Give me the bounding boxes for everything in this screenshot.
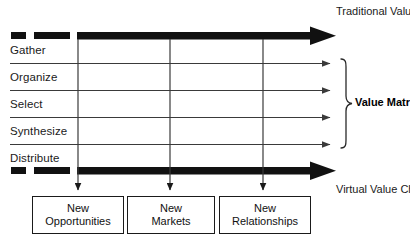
node-box-label: New Markets xyxy=(151,202,190,228)
node-box-label: New Opportunities xyxy=(45,202,110,228)
row-label-distribute: Distribute xyxy=(10,152,60,164)
value-matrix-brace xyxy=(341,59,352,148)
traditional-value-chain-label: Traditional Value Chain xyxy=(336,5,408,18)
virtual-value-chain-arrow xyxy=(11,162,336,181)
traditional-value-chain-arrow xyxy=(11,27,336,46)
virtual-value-chain-label: Virtual Value Chain xyxy=(336,183,408,196)
row-label-gather: Gather xyxy=(10,44,46,56)
node-box-new-opportunities[interactable]: New Opportunities xyxy=(32,196,124,234)
value-matrix-label: Value Matrix xyxy=(355,96,407,109)
row-label-synthesize: Synthesize xyxy=(10,125,67,137)
node-box-new-relationships[interactable]: New Relationships xyxy=(219,196,311,234)
row-label-organize: Organize xyxy=(10,71,57,83)
value-matrix-diagram: Gather Organize Select Synthesize Distri… xyxy=(0,0,410,242)
row-label-select: Select xyxy=(10,98,43,110)
node-box-label: New Relationships xyxy=(232,202,298,228)
node-box-new-markets[interactable]: New Markets xyxy=(127,196,215,234)
